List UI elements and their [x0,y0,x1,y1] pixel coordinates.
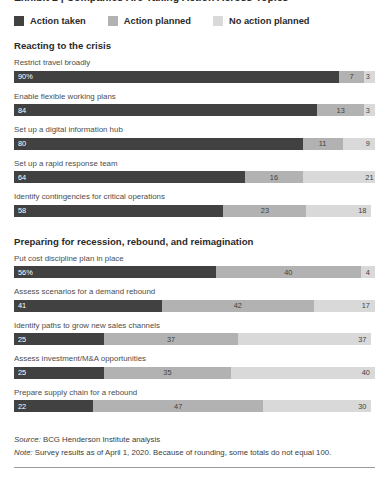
bar-segment-value: 90% [18,72,33,81]
bar-row-label: Prepare supply chain for a rebound [14,388,375,398]
bar-row-label: Identify paths to grow new sales channel… [14,321,375,331]
bar-segment-action-planned: 13 [317,104,364,116]
bar-row: Identify contingencies for critical oper… [14,192,375,217]
stacked-bar: 90%73 [14,71,375,83]
bar-row: Restrict travel broadly90%73 [14,58,375,83]
bar-segment-value: 30 [358,402,366,411]
bar-segment-value: 25 [18,368,26,377]
bar-row: Prepare supply chain for a rebound224730 [14,388,375,413]
bar-row-label: Identify contingencies for critical oper… [14,192,375,202]
bar-segment-action-taken: 84 [14,104,317,116]
bar-segment-value: 13 [337,106,345,115]
bar-segment-action-planned: 7 [339,71,364,83]
note-line: Note: Survey results as of April 1, 2020… [14,447,375,458]
bar-segment-action-taken: 25 [14,367,104,379]
bar-segment-action-planned: 35 [104,367,230,379]
bar-segment-action-taken: 58 [14,205,223,217]
legend-item-action-planned: Action planned [108,16,191,26]
bar-segment-action-taken: 56% [14,266,216,278]
bar-segment-value: 18 [358,206,366,215]
bar-segment-value: 64 [18,173,26,182]
bottom-rule [14,467,375,468]
bar-segment-action-planned: 47 [93,400,263,412]
bar-segment-action-taken: 90% [14,71,339,83]
bar-segment-value: 56% [18,268,33,277]
bar-row-label: Assess investment/M&A opportunities [14,354,375,364]
bar-segment-no-action-planned: 3 [364,71,375,83]
bar-row-label: Restrict travel broadly [14,58,375,68]
stacked-bar: 224730 [14,400,375,412]
source-text: BCG Henderson Institute analysis [41,435,160,444]
bar-segment-value: 21 [365,173,373,182]
bar-segment-no-action-planned: 37 [238,333,372,345]
chart-section-1: Preparing for recession, rebound, and re… [14,236,375,413]
legend-swatch-action-taken [14,16,24,26]
exhibit-title: Exhibit 2 | Companies Are Taking Action … [14,0,375,3]
chart-legend: Action takenAction plannedNo action plan… [14,15,375,27]
bar-segment-value: 9 [366,139,370,148]
footnotes: Source: BCG Henderson Institute analysis… [14,434,375,460]
bar-row: Enable flexible working plans84133 [14,92,375,117]
bar-segment-action-planned: 11 [303,138,343,150]
bar-row-label: Enable flexible working plans [14,92,375,102]
bar-row: Set up a rapid response team641621 [14,159,375,184]
legend-item-no-action-planned: No action planned [213,16,310,26]
bar-segment-value: 47 [174,402,182,411]
stacked-bar: 253540 [14,367,375,379]
bar-segment-value: 11 [319,139,327,148]
legend-swatch-no-action-planned [213,16,223,26]
bar-segment-action-taken: 25 [14,333,104,345]
legend-label: Action planned [124,16,191,26]
bar-segment-value: 25 [18,335,26,344]
legend-item-action-taken: Action taken [14,16,86,26]
bar-segment-action-planned: 16 [245,171,303,183]
section-title: Reacting to the crisis [14,40,375,51]
stacked-bar: 84133 [14,104,375,116]
bar-segment-no-action-planned: 3 [364,104,375,116]
stacked-bar: 414217 [14,300,375,312]
bar-row-label: Put cost discipline plan in place [14,254,375,264]
bar-row-label: Assess scenarios for a demand rebound [14,287,375,297]
stacked-bar: 253737 [14,333,375,345]
source-line: Source: BCG Henderson Institute analysis [14,434,375,445]
bar-segment-action-planned: 37 [104,333,238,345]
bar-segment-value: 4 [366,268,370,277]
bar-segment-value: 40 [284,268,292,277]
stacked-bar: 582318 [14,205,375,217]
bar-segment-value: 80 [18,139,26,148]
note-label: Note: [14,448,33,457]
bar-segment-action-taken: 64 [14,171,245,183]
bar-segment-value: 42 [234,301,242,310]
bar-segment-value: 23 [261,206,269,215]
bar-row: Assess scenarios for a demand rebound414… [14,287,375,312]
note-text: Survey results as of April 1, 2020. Beca… [33,448,332,457]
bar-segment-value: 84 [18,106,26,115]
bar-segment-value: 3 [366,106,370,115]
bar-segment-no-action-planned: 40 [231,367,375,379]
bar-segment-value: 37 [167,335,175,344]
bar-segment-no-action-planned: 4 [361,266,375,278]
bar-segment-action-taken: 41 [14,300,162,312]
bar-row-label: Set up a rapid response team [14,159,375,169]
bar-row: Put cost discipline plan in place56%404 [14,254,375,279]
chart-section-0: Reacting to the crisisRestrict travel br… [14,40,375,217]
legend-swatch-action-planned [108,16,118,26]
bar-segment-value: 40 [362,368,370,377]
stacked-bar: 641621 [14,171,375,183]
bar-row: Set up a digital information hub80119 [14,125,375,150]
bar-segment-value: 22 [18,402,26,411]
source-label: Source: [14,435,41,444]
bar-segment-action-planned: 23 [223,205,306,217]
bar-segment-action-taken: 80 [14,138,303,150]
bar-segment-action-planned: 40 [216,266,360,278]
bar-segment-value: 17 [362,301,370,310]
bar-segment-no-action-planned: 17 [314,300,375,312]
bar-segment-no-action-planned: 9 [343,138,375,150]
bar-segment-value: 41 [18,301,26,310]
bar-row: Identify paths to grow new sales channel… [14,321,375,346]
bar-segment-no-action-planned: 21 [303,171,375,183]
bar-segment-action-taken: 22 [14,400,93,412]
section-title: Preparing for recession, rebound, and re… [14,236,375,247]
stacked-bar: 80119 [14,138,375,150]
bar-segment-value: 3 [366,72,370,81]
